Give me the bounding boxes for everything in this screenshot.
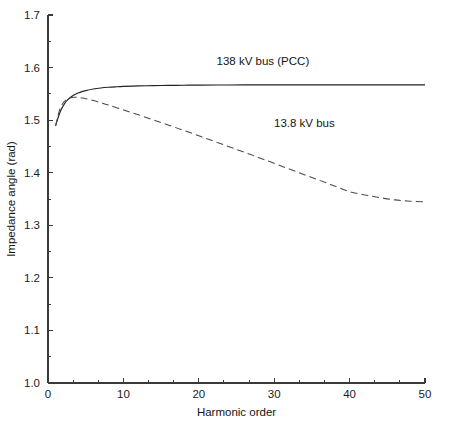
impedance-angle-line-chart: 1.01.11.21.31.41.51.61.7 01020304050 138… [0, 0, 452, 424]
x-tick-label: 40 [343, 388, 356, 400]
y-tick-label: 1.3 [24, 219, 40, 231]
series-label-1: 13.8 kV bus [274, 117, 335, 129]
x-axis-title: Harmonic order [197, 406, 276, 418]
y-tick-label: 1.5 [24, 114, 40, 126]
y-tick-label: 1.1 [24, 324, 40, 336]
x-tick-label: 0 [45, 388, 51, 400]
x-tick-label: 30 [268, 388, 281, 400]
series-label-0: 138 kV bus (PCC) [217, 55, 310, 67]
y-axis-title: Impedance angle (rad) [5, 141, 17, 257]
y-tick-label: 1.4 [24, 167, 41, 179]
y-tick-label: 1.2 [24, 272, 40, 284]
x-tick-label: 50 [419, 388, 432, 400]
x-tick-label: 20 [192, 388, 205, 400]
chart-figure: 1.01.11.21.31.41.51.61.7 01020304050 138… [0, 0, 452, 424]
y-tick-label: 1.0 [24, 377, 40, 389]
x-tick-label: 10 [117, 388, 130, 400]
y-tick-label: 1.7 [24, 9, 40, 21]
y-tick-label: 1.6 [24, 62, 40, 74]
